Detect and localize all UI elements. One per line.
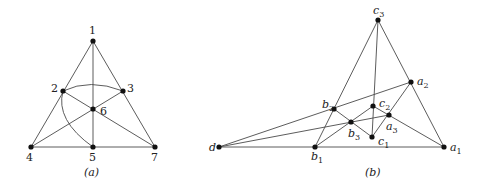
node-4 <box>28 144 33 149</box>
node-label-c3: c3 <box>373 4 384 19</box>
node-label-b1: b1 <box>311 150 323 165</box>
figure-b-caption: (b) <box>365 166 381 179</box>
node-label-6: 6 <box>100 105 107 118</box>
edge-b1-c2 <box>315 106 373 147</box>
node-label-b2: b2 <box>322 98 334 113</box>
node-label-b3: b3 <box>348 127 360 142</box>
edge-c3-c1 <box>372 20 378 137</box>
node-7 <box>152 144 157 149</box>
node-a3 <box>386 112 391 117</box>
node-label-5: 5 <box>89 151 96 164</box>
node-3 <box>120 88 125 93</box>
figure-b-configuration: c3a2b2c2a3b3c1db1a1 <box>209 4 462 165</box>
node-b1 <box>312 144 317 149</box>
diagram-canvas: 1236457 (a) c3a2b2c2a3b3c1db1a1 (b) <box>0 0 483 189</box>
node-label-1: 1 <box>89 24 96 37</box>
node-c1 <box>369 134 374 139</box>
node-label-7: 7 <box>151 151 158 164</box>
node-label-d: d <box>209 141 216 154</box>
node-label-a1: a1 <box>450 141 462 156</box>
node-a1 <box>441 144 446 149</box>
edge-c3-b1 <box>315 20 378 147</box>
edge-1-7 <box>93 41 155 147</box>
node-1 <box>90 38 95 43</box>
node-label-2: 2 <box>51 82 58 95</box>
node-a2 <box>408 79 413 84</box>
figure-a-fano-plane: 1236457 <box>26 24 158 164</box>
node-label-4: 4 <box>26 151 33 164</box>
node-d <box>216 144 221 149</box>
node-5 <box>90 144 95 149</box>
node-b3 <box>348 119 353 124</box>
figure-a-caption: (a) <box>84 166 99 179</box>
node-label-a3: a3 <box>386 120 398 135</box>
node-c2 <box>370 103 375 108</box>
node-6 <box>90 106 95 111</box>
node-label-c2: c2 <box>379 97 390 112</box>
node-2 <box>60 88 65 93</box>
node-label-c1: c1 <box>378 135 389 150</box>
node-label-a2: a2 <box>417 75 429 90</box>
node-label-3: 3 <box>127 82 134 95</box>
